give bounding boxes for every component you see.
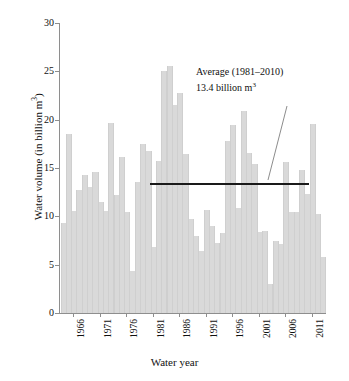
x-tick-label-1966: 1966 (77, 319, 87, 338)
x-tick-mark (153, 313, 154, 317)
x-tick-label-2001: 2001 (263, 319, 273, 338)
x-tick-label-2006: 2006 (289, 319, 299, 338)
x-tick-mark (73, 313, 74, 317)
x-tick-mark (232, 313, 233, 317)
x-tick-label-1986: 1986 (183, 319, 193, 338)
x-tick-mark (312, 313, 313, 317)
annotation-line-2-text: 13.4 billion m (196, 82, 252, 93)
x-tick-mark (285, 313, 286, 317)
x-tick-label-1996: 1996 (236, 319, 246, 338)
x-tick-mark (206, 313, 207, 317)
x-tick-mark (179, 313, 180, 317)
water-volume-bar-chart-figure: Water volume (in billion m3) 05101520253… (0, 0, 349, 381)
annotation-line-1: Average (1981–2010) (196, 66, 283, 79)
x-tick-label-1991: 1991 (210, 319, 220, 338)
average-annotation: Average (1981–2010) 13.4 billion m3 (196, 66, 283, 94)
annotation-line-2: 13.4 billion m3 (196, 79, 283, 95)
x-tick-mark (259, 313, 260, 317)
x-tick-label-1976: 1976 (130, 319, 140, 338)
x-tick-mark (100, 313, 101, 317)
x-tick-label-1971: 1971 (104, 319, 114, 338)
x-tick-mark (126, 313, 127, 317)
x-axis-title: Water year (0, 356, 349, 368)
x-tick-label-2011: 2011 (316, 319, 326, 338)
x-tick-label-1981: 1981 (157, 319, 167, 338)
annotation-line-2-superscript: 3 (252, 81, 256, 89)
